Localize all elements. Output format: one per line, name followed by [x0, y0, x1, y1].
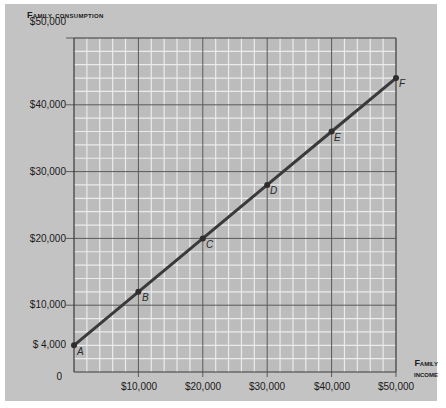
chart-plot [0, 0, 446, 408]
point-label-d: D [270, 185, 277, 196]
data-point-c [200, 235, 206, 241]
point-label-e: E [334, 132, 341, 143]
y-tick-30000: $30,000 [30, 166, 66, 177]
y-tick-40000: $40,000 [30, 99, 66, 110]
x-tick-40000: $40,000 [314, 381, 350, 392]
y-tick-zero: 0 [56, 371, 62, 382]
point-label-a: A [77, 346, 84, 357]
data-point-b [135, 289, 141, 295]
point-label-f: F [399, 78, 405, 89]
x-tick-10000: $10,000 [121, 381, 157, 392]
point-label-b: B [142, 292, 149, 303]
y-tick-20000: $20,000 [30, 233, 66, 244]
x-axis-title-line1: Family [400, 358, 438, 369]
x-tick-30000: $30,000 [249, 381, 285, 392]
x-axis-title: Family income [400, 358, 438, 380]
y-tick-50000: $50,000 [30, 16, 66, 27]
x-tick-50000: $50,000 [378, 381, 414, 392]
plot-area [74, 38, 396, 372]
point-label-c: C [206, 239, 213, 250]
y-tick-10000: $10,000 [30, 299, 66, 310]
y-tick-4000: $ 4,000 [33, 339, 66, 350]
x-tick-20000: $20,000 [185, 381, 221, 392]
x-axis-title-line2: income [400, 369, 438, 380]
